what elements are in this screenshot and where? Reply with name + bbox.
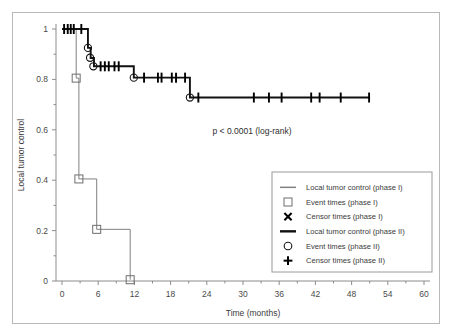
x-tick-label-48: 48 — [347, 289, 357, 299]
x-tick-label-6: 6 — [96, 289, 101, 299]
y-tick-labels: 00.20.40.60.81 — [36, 24, 48, 286]
y-tick-label-0: 0 — [43, 276, 48, 286]
x-axis-title: Time (months) — [226, 308, 281, 318]
y-tick-label-0.8: 0.8 — [36, 74, 48, 84]
annotation-0: p < 0.0001 (log-rank) — [212, 126, 291, 136]
chart-legend: Local tumor control (phase I)Event times… — [272, 172, 432, 272]
y-tick-label-1: 1 — [43, 24, 48, 34]
pvalue-annotation: p < 0.0001 (log-rank) — [212, 126, 291, 136]
x-tick-label-42: 42 — [311, 289, 321, 299]
x-tick-labels: 06121824303642485460 — [60, 289, 429, 299]
x-tick-label-0: 0 — [60, 289, 65, 299]
legend-label-1: Event times (phase I) — [306, 198, 378, 207]
legend-label-5: Censor times (phase II) — [306, 256, 385, 265]
legend-label-2: Censor times (phase I) — [306, 212, 383, 221]
x-tick-label-54: 54 — [383, 289, 393, 299]
figure-root: 06121824303642485460 00.20.40.60.81 p < … — [0, 0, 453, 336]
x-tick-label-24: 24 — [202, 289, 212, 299]
y-tick-label-0.6: 0.6 — [36, 125, 48, 135]
y-axis-title: Local tumor control — [16, 119, 26, 191]
x-tick-label-18: 18 — [166, 289, 176, 299]
y-tick-label-0.4: 0.4 — [36, 175, 48, 185]
legend-label-4: Event times (phase II) — [306, 242, 380, 251]
x-tick-label-60: 60 — [419, 289, 429, 299]
x-tick-label-30: 30 — [238, 289, 248, 299]
x-tick-label-12: 12 — [130, 289, 140, 299]
y-tick-label-0.2: 0.2 — [36, 226, 48, 236]
kaplan-meier-chart: 06121824303642485460 00.20.40.60.81 p < … — [0, 0, 453, 336]
legend-label-0: Local tumor control (phase I) — [306, 183, 403, 192]
x-tick-label-36: 36 — [274, 289, 284, 299]
legend-label-3: Local tumor control (phase II) — [306, 227, 405, 236]
